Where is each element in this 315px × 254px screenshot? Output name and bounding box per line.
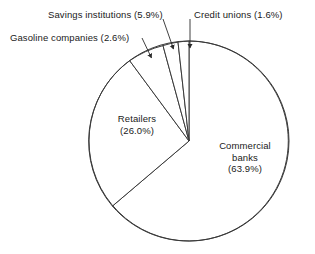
label-commercial-banks-name-1: Commercial bbox=[210, 140, 280, 152]
label-gasoline-companies: Gasoline companies (2.6%) bbox=[10, 32, 129, 43]
label-commercial-banks-percent: (63.9%) bbox=[210, 163, 280, 175]
label-retailers-percent: (26.0%) bbox=[106, 125, 168, 137]
label-retailers: Retailers (26.0%) bbox=[106, 113, 168, 136]
label-retailers-name: Retailers bbox=[106, 113, 168, 125]
label-commercial-banks: Commercial banks (63.9%) bbox=[210, 140, 280, 175]
label-commercial-banks-name-2: banks bbox=[210, 152, 280, 164]
pie-chart-figure: Savings institutions (5.9%) Credit union… bbox=[0, 0, 315, 254]
label-credit-unions: Credit unions (1.6%) bbox=[194, 9, 283, 20]
label-savings-institutions: Savings institutions (5.9%) bbox=[48, 9, 163, 20]
